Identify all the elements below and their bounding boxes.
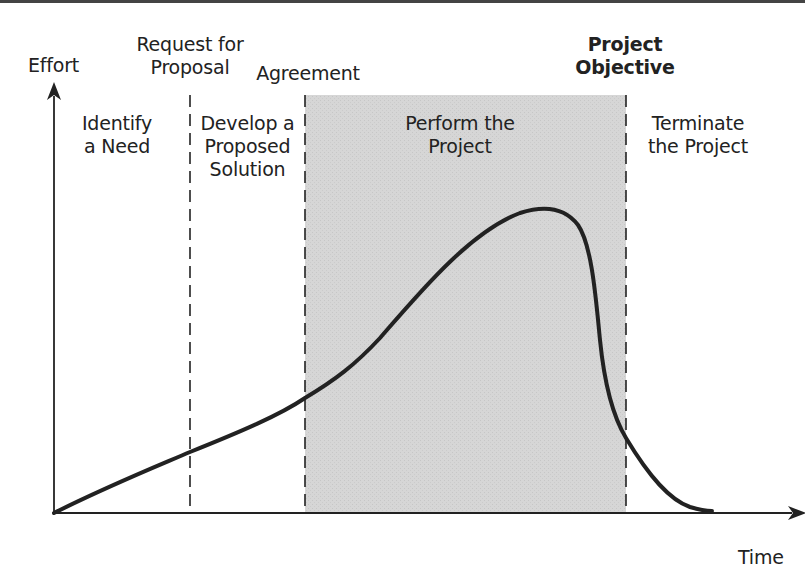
- phase-develop-label: Develop a Proposed Solution: [190, 112, 305, 181]
- y-axis-label: Effort: [28, 54, 79, 77]
- x-axis-label: Time: [738, 546, 784, 569]
- milestone-agreement-label: Agreement: [248, 62, 368, 85]
- phase-terminate-label: Terminate the Project: [628, 112, 768, 158]
- life-cycle-diagram: [0, 0, 805, 584]
- milestone-objective-label: Project Objective: [560, 33, 690, 79]
- phase-perform-label: Perform the Project: [390, 112, 530, 158]
- milestone-rfp-label: Request for Proposal: [120, 33, 260, 79]
- phase-identify-label: Identify a Need: [62, 112, 172, 158]
